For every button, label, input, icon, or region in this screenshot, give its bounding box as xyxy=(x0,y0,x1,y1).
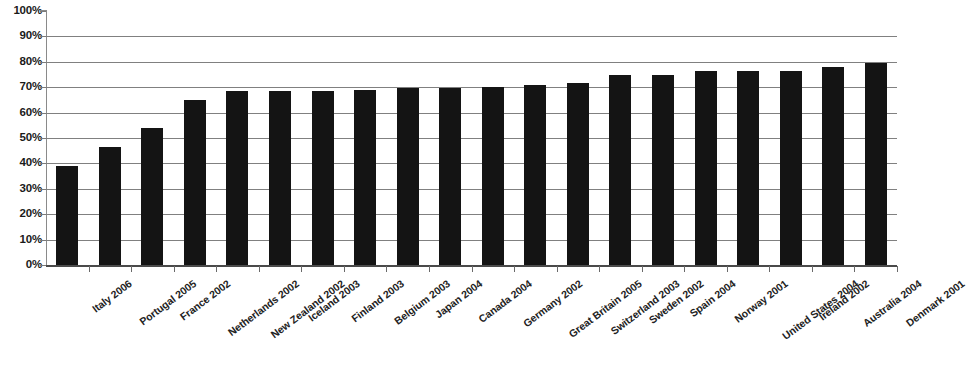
bar xyxy=(822,67,844,265)
y-tick-mark xyxy=(40,62,46,63)
y-tick-label: 60% xyxy=(0,107,42,119)
bar xyxy=(865,63,887,265)
x-tick-mark xyxy=(854,266,855,272)
y-tick-mark xyxy=(40,214,46,215)
bar xyxy=(354,90,376,265)
y-tick-label: 20% xyxy=(0,208,42,220)
x-tick-mark xyxy=(684,266,685,272)
bar xyxy=(609,75,631,266)
bar xyxy=(184,100,206,265)
bar xyxy=(652,75,674,265)
x-tick-mark xyxy=(216,266,217,272)
bar xyxy=(226,91,248,265)
x-category-label: Italy 2006 xyxy=(91,278,134,314)
y-tick-label: 10% xyxy=(0,234,42,246)
x-tick-mark xyxy=(174,266,175,272)
y-tick-mark xyxy=(40,11,46,12)
x-tick-mark xyxy=(812,266,813,272)
y-tick-label: 0% xyxy=(0,259,42,271)
y-tick-mark xyxy=(40,189,46,190)
x-category-label: Norway 2001 xyxy=(732,278,789,324)
y-tick-mark xyxy=(40,36,46,37)
x-tick-mark xyxy=(599,266,600,272)
y-tick-mark xyxy=(40,163,46,164)
y-tick-mark xyxy=(40,265,46,266)
y-tick-label: 50% xyxy=(0,132,42,144)
bar xyxy=(439,88,461,265)
y-tick-label: 100% xyxy=(0,5,42,17)
y-tick-mark xyxy=(40,113,46,114)
x-tick-mark xyxy=(727,266,728,272)
y-tick-label: 40% xyxy=(0,158,42,170)
x-tick-mark xyxy=(769,266,770,272)
x-tick-mark xyxy=(344,266,345,272)
x-tick-mark xyxy=(386,266,387,272)
bar xyxy=(269,91,291,265)
bar xyxy=(141,128,163,265)
bar xyxy=(737,71,759,265)
y-tick-mark xyxy=(40,87,46,88)
y-axis-tick-labels: 100%90%80%70%60%50%40%30%20%10%0% xyxy=(0,0,42,275)
x-tick-mark xyxy=(131,266,132,272)
x-tick-mark xyxy=(472,266,473,272)
bar xyxy=(524,85,546,265)
y-tick-label: 80% xyxy=(0,56,42,68)
bar xyxy=(99,147,121,265)
x-tick-mark xyxy=(429,266,430,272)
y-tick-label: 90% xyxy=(0,31,42,43)
y-tick-label: 30% xyxy=(0,183,42,195)
x-tick-mark xyxy=(89,266,90,272)
x-tick-mark xyxy=(259,266,260,272)
x-tick-mark xyxy=(642,266,643,272)
bar xyxy=(780,71,802,265)
x-tick-mark xyxy=(557,266,558,272)
bars-layer xyxy=(46,11,897,265)
bar xyxy=(695,71,717,265)
x-tick-mark xyxy=(301,266,302,272)
bar xyxy=(312,91,334,265)
bar xyxy=(482,87,504,265)
y-tick-mark xyxy=(40,138,46,139)
bar xyxy=(567,83,589,265)
y-tick-label: 70% xyxy=(0,81,42,93)
bar xyxy=(397,88,419,265)
x-tick-mark xyxy=(897,266,898,272)
x-category-label: Portugal 2005 xyxy=(137,278,197,327)
x-tick-mark xyxy=(514,266,515,272)
y-tick-mark xyxy=(40,240,46,241)
x-axis-category-labels: Italy 2006Portugal 2005France 2002Nether… xyxy=(0,272,898,373)
bar xyxy=(56,166,78,265)
